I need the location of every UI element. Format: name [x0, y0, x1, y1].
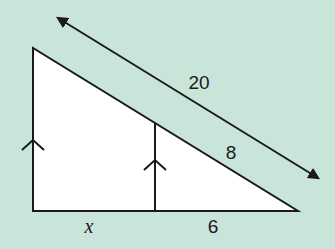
large-triangle: [33, 48, 298, 211]
triangle-figure: [0, 0, 335, 249]
label-base-x: x: [85, 216, 94, 236]
label-base-6: 6: [208, 217, 219, 236]
label-hypotenuse-total: 20: [188, 73, 209, 92]
label-hypotenuse-segment: 8: [226, 143, 237, 162]
diagram: 20 8 x 6: [0, 0, 335, 249]
